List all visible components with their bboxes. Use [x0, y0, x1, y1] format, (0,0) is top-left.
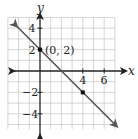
y-tick-label-4: 4 — [29, 22, 36, 35]
y-tick-label-2: 2 — [29, 44, 36, 57]
y-axis-label: y — [36, 1, 44, 15]
coordinate-plane: x y 4 6 4 2 −2 −4 (0, 2) — [0, 0, 138, 139]
point-4-neg2 — [81, 90, 85, 94]
y-tick-label-neg2: −2 — [22, 86, 38, 99]
x-tick-label-6: 6 — [101, 74, 108, 87]
point-0-2 — [38, 48, 42, 52]
x-axis-label: x — [128, 64, 135, 78]
point-label-0-2: (0, 2) — [45, 44, 75, 57]
x-tick-label-4: 4 — [80, 74, 87, 87]
y-tick-label-neg4: −4 — [22, 108, 38, 121]
